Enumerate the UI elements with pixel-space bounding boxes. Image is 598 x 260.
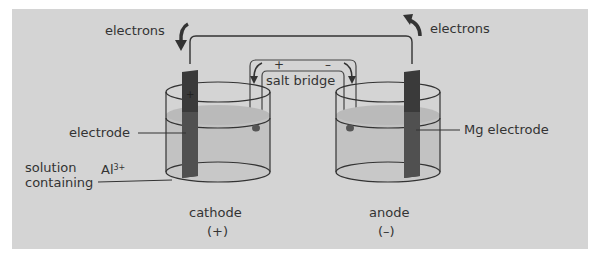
ion-label: Al3+ (101, 162, 125, 177)
mg-electrode-label: Mg electrode (464, 122, 549, 137)
salt-bridge-arrow-left-icon (254, 63, 262, 78)
cathode-sign: (+) (207, 224, 228, 239)
salt-bridge-label: salt bridge (266, 73, 335, 88)
cathode-label: cathode (189, 205, 242, 220)
ion-charge: 3+ (114, 163, 126, 172)
solution-label-line1: solution (25, 160, 76, 175)
salt-bridge-plus: + (274, 58, 284, 73)
anode-beaker (336, 82, 440, 182)
ion-symbol: Al (101, 162, 114, 177)
salt-bridge-minus: – (325, 58, 331, 73)
electrode-label: electrode (69, 125, 130, 140)
electrode-plus-mark: + (186, 87, 194, 102)
salt-bridge-plug-left (252, 125, 260, 132)
salt-bridge-arrow-right-icon (344, 63, 352, 78)
cathode-beaker (166, 82, 270, 182)
solution-label-line2: containing (25, 175, 93, 190)
electrons-label-right: electrons (430, 21, 490, 36)
anode-sign: (–) (378, 224, 395, 239)
anode-label: anode (369, 205, 409, 220)
electrons-label-left: electrons (105, 23, 165, 38)
salt-bridge-plug-right (346, 125, 354, 132)
solution-leader (98, 180, 172, 182)
electron-arrow-left-icon (181, 24, 188, 42)
